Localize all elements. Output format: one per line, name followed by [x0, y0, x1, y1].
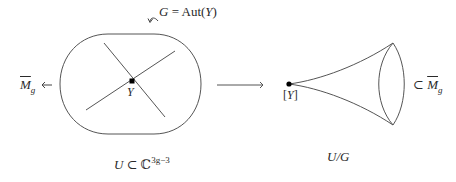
point-y [130, 79, 135, 84]
quotient-caption: U/G [327, 150, 349, 163]
quotient-horn-upper [289, 43, 393, 84]
diagram-canvas [0, 0, 456, 182]
moduli-space-label-left: Mg [20, 78, 35, 91]
quotient-lens-right [393, 43, 404, 125]
point-y-label: Y [127, 86, 134, 98]
group-label: G = Aut(Y) [159, 5, 217, 18]
point-class-y-label: [Y] [283, 89, 298, 101]
neighborhood-caption: U ⊂ ℂ3g−3 [114, 158, 170, 171]
quotient-horn-lower [289, 84, 393, 125]
quotient-lens-left [379, 43, 393, 125]
neighborhood-u-outline [60, 34, 201, 134]
point-class-y [286, 81, 291, 86]
moduli-space-label-right: ⊂ Mg [413, 78, 443, 91]
